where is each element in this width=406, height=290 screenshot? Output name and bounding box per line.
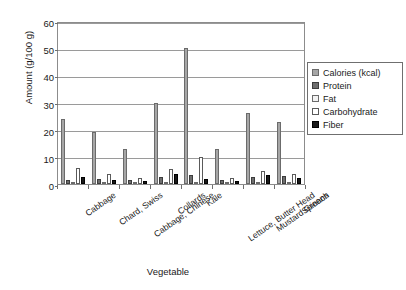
bar[interactable]: [71, 182, 75, 184]
x-axis-title: Vegetable: [30, 266, 306, 277]
bar[interactable]: [174, 174, 178, 184]
bar[interactable]: [107, 174, 111, 184]
bar[interactable]: [81, 177, 85, 184]
bar[interactable]: [143, 181, 147, 184]
legend-item-label: Protein: [323, 81, 352, 91]
bar[interactable]: [204, 179, 208, 184]
x-axis-labels: CabbageChard, SwissCabbage, ChineseColla…: [0, 185, 406, 265]
y-tick-label: 60: [43, 18, 54, 29]
legend-swatch-icon: [312, 95, 319, 102]
bar[interactable]: [287, 182, 291, 184]
x-axis-label: Cabbage: [83, 190, 117, 218]
bar-group: [58, 23, 89, 184]
bar[interactable]: [297, 178, 301, 184]
legend-item-label: Calories (kcal): [323, 68, 381, 78]
bar[interactable]: [138, 178, 142, 184]
y-tick-label: 10: [43, 153, 54, 164]
bar[interactable]: [189, 175, 193, 184]
legend-swatch-icon: [312, 121, 319, 128]
bar[interactable]: [66, 180, 70, 184]
x-axis-label: Lettuce, Butter Head: [246, 190, 316, 243]
legend-swatch-icon: [312, 108, 319, 115]
legend-item-label: Carbohydrate: [323, 107, 378, 117]
bar[interactable]: [194, 182, 198, 184]
bar-group: [273, 23, 304, 184]
bar[interactable]: [102, 182, 106, 184]
legend-item[interactable]: Fat: [312, 92, 399, 105]
legend-item[interactable]: Fiber: [312, 118, 399, 131]
bar[interactable]: [169, 169, 173, 184]
bar[interactable]: [184, 48, 188, 184]
bar[interactable]: [246, 113, 250, 184]
bar[interactable]: [128, 180, 132, 184]
y-tick-label: 40: [43, 72, 54, 83]
bar-group: [120, 23, 151, 184]
bar[interactable]: [251, 177, 255, 184]
x-axis-label: Chard, Swiss: [117, 190, 164, 227]
legend-item-label: Fat: [323, 94, 336, 104]
legend-item-label: Fiber: [323, 120, 344, 130]
bar[interactable]: [97, 179, 101, 184]
bar[interactable]: [235, 181, 239, 184]
bar-group: [243, 23, 274, 184]
bar[interactable]: [282, 176, 286, 184]
bar[interactable]: [261, 171, 265, 184]
bar[interactable]: [199, 157, 203, 184]
y-tick-label: 30: [43, 99, 54, 110]
bar[interactable]: [154, 103, 158, 185]
bar-groups: [58, 23, 304, 184]
y-tick-label: 50: [43, 45, 54, 56]
bar[interactable]: [256, 182, 260, 184]
bar[interactable]: [230, 178, 234, 184]
legend-item[interactable]: Protein: [312, 79, 399, 92]
bar[interactable]: [266, 175, 270, 184]
chart-legend: Calories (kcal)ProteinFatCarbohydrateFib…: [307, 62, 403, 135]
y-axis-title: Amount (g/100 g): [23, 0, 34, 138]
bar[interactable]: [225, 182, 229, 184]
bar[interactable]: [112, 180, 116, 184]
bar[interactable]: [76, 168, 80, 184]
bar-group: [150, 23, 181, 184]
bar[interactable]: [220, 180, 224, 184]
bar[interactable]: [61, 119, 65, 184]
bar-chart: Amount (g/100 g) 0102030405060 CabbageCh…: [0, 0, 406, 290]
bar[interactable]: [92, 132, 96, 184]
bar[interactable]: [215, 149, 219, 184]
bar[interactable]: [292, 174, 296, 184]
legend-swatch-icon: [312, 69, 319, 76]
bar-group: [181, 23, 212, 184]
legend-swatch-icon: [312, 82, 319, 89]
legend-item[interactable]: Calories (kcal): [312, 66, 399, 79]
bar[interactable]: [123, 149, 127, 184]
bar[interactable]: [159, 177, 163, 184]
bar[interactable]: [133, 182, 137, 184]
plot-area: 0102030405060: [57, 22, 305, 185]
bar-group: [89, 23, 120, 184]
legend-item[interactable]: Carbohydrate: [312, 105, 399, 118]
y-tick-label: 20: [43, 126, 54, 137]
bar[interactable]: [277, 122, 281, 184]
bar[interactable]: [164, 182, 168, 184]
bar-group: [212, 23, 243, 184]
